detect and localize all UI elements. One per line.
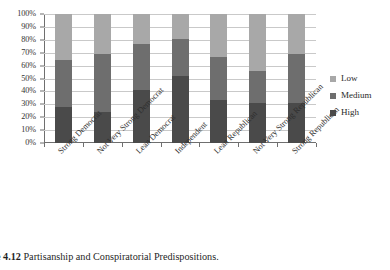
bar-segment-low[interactable] xyxy=(94,14,111,54)
legend-item-label: Low xyxy=(341,74,358,83)
bar-segment-low[interactable] xyxy=(288,14,305,54)
legend-item-label: High xyxy=(341,108,359,117)
stacked-bar[interactable] xyxy=(210,14,227,143)
stacked-bar[interactable] xyxy=(288,14,305,143)
bar-segment-medium[interactable] xyxy=(133,44,150,90)
stacked-bar[interactable] xyxy=(249,14,266,143)
stacked-bar[interactable] xyxy=(172,14,189,143)
bar-segment-medium[interactable] xyxy=(288,54,305,103)
bar-segment-medium[interactable] xyxy=(55,60,72,106)
legend-item-label: Medium xyxy=(341,91,372,100)
legend-swatch-icon xyxy=(330,93,336,99)
bar-segment-low[interactable] xyxy=(210,14,227,57)
bar-segment-low[interactable] xyxy=(133,14,150,44)
y-axis-tick-label: 10% xyxy=(21,126,36,134)
stacked-bar[interactable] xyxy=(94,14,111,143)
bar-segment-low[interactable] xyxy=(249,14,266,71)
bar-segment-low[interactable] xyxy=(55,14,72,60)
figure-caption: ure 4.12 Partisanship and Conspiratorial… xyxy=(0,251,390,263)
y-axis-tick-label: 50% xyxy=(21,74,36,82)
bar-segment-medium[interactable] xyxy=(94,54,111,112)
figure-caption-text: Partisanship and Conspiratorial Predispo… xyxy=(23,251,218,262)
bar-segment-medium[interactable] xyxy=(172,39,189,76)
y-axis: 0%10%20%30%40%50%60%70%80%90%100% xyxy=(0,14,44,143)
bar-segment-medium[interactable] xyxy=(210,57,227,101)
legend-swatch-icon xyxy=(330,110,336,116)
legend-item[interactable]: High xyxy=(330,106,390,119)
y-axis-tick-label: 90% xyxy=(21,23,36,31)
figure-container: 0%10%20%30%40%50%60%70%80%90%100% Strong… xyxy=(0,0,390,270)
y-axis-tick-label: 20% xyxy=(21,113,36,121)
chart-legend: LowMediumHigh xyxy=(330,72,390,123)
y-axis-tick-label: 100% xyxy=(17,10,36,18)
legend-item[interactable]: Low xyxy=(330,72,390,85)
stacked-bar[interactable] xyxy=(55,14,72,143)
stacked-bar[interactable] xyxy=(133,14,150,143)
legend-item[interactable]: Medium xyxy=(330,89,390,102)
y-axis-tick-label: 60% xyxy=(21,61,36,69)
bar-segment-medium[interactable] xyxy=(249,71,266,103)
y-axis-tick-label: 80% xyxy=(21,36,36,44)
y-axis-tick-label: 30% xyxy=(21,100,36,108)
bar-segment-high[interactable] xyxy=(172,76,189,143)
x-axis-labels: Strong DemocratNot Very Strong DemocratL… xyxy=(0,143,390,243)
figure-number: ure 4.12 xyxy=(0,251,21,262)
y-axis-tick-label: 70% xyxy=(21,49,36,57)
legend-swatch-icon xyxy=(330,76,336,82)
y-axis-tick-label: 40% xyxy=(21,87,36,95)
bar-segment-low[interactable] xyxy=(172,14,189,39)
